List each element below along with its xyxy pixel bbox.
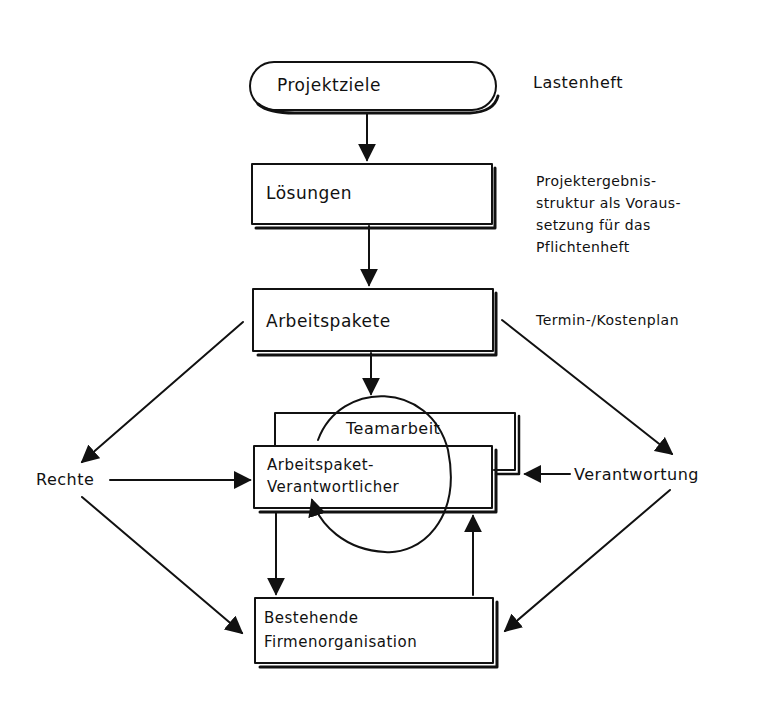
arrow-arbeitspakete-verantwortung [502,320,672,454]
pflichtenheft-note: Projektergebnis- struktur als Voraus- se… [536,170,681,258]
verantwortlicher-label-line2: Verantwortlicher [267,476,399,498]
projektziele-label: Projektziele [277,74,381,96]
firmenorganisation-label-line1: Bestehende [264,607,358,629]
firmenorganisation-label-line2: Firmenorganisation [264,631,417,653]
terminplan-note: Termin-/Kostenplan [536,309,679,331]
flowchart-canvas [0,0,762,711]
teamarbeit-label: Teamarbeit [346,418,440,440]
loesungen-label: Lösungen [266,182,352,204]
arrow-arbeitspakete-rechte [82,322,243,462]
pflichtenheft-note-line: Pflichtenheft [536,236,681,258]
pflichtenheft-note-line: struktur als Voraus- [536,192,681,214]
verantwortlicher-label-line1: Arbeitspaket- [267,454,374,476]
pflichtenheft-note-line: Projektergebnis- [536,170,681,192]
arrow-rechte-firmenorganisation [82,497,242,633]
lastenheft-note: Lastenheft [533,72,623,94]
arrow-verantwortung-firmenorganisation [505,490,670,631]
arbeitspakete-label: Arbeitspakete [266,310,391,332]
verantwortung-label: Verantwortung [574,464,699,486]
rechte-label: Rechte [36,469,94,491]
pflichtenheft-note-line: setzung für das [536,214,681,236]
